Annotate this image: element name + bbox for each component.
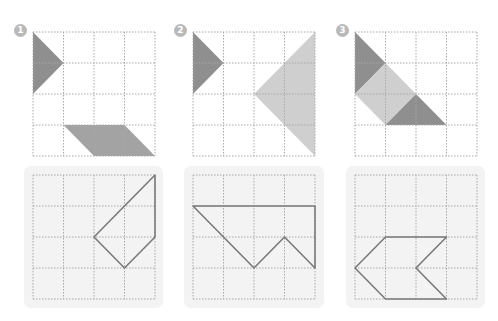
problem-number-badge-2: 2 bbox=[174, 24, 187, 37]
pieces-grid-3 bbox=[354, 31, 478, 157]
target-outline-grid-3 bbox=[354, 174, 478, 300]
target-outline-grid-2 bbox=[192, 174, 316, 300]
target-outline-grid-1 bbox=[32, 174, 156, 300]
tangram-piece-medium bbox=[64, 125, 156, 156]
pieces-grid-1 bbox=[32, 31, 156, 157]
problem-number-badge-1: 1 bbox=[14, 24, 27, 37]
problem-number-badge-3: 3 bbox=[336, 24, 349, 37]
pieces-grid-2 bbox=[192, 31, 316, 157]
